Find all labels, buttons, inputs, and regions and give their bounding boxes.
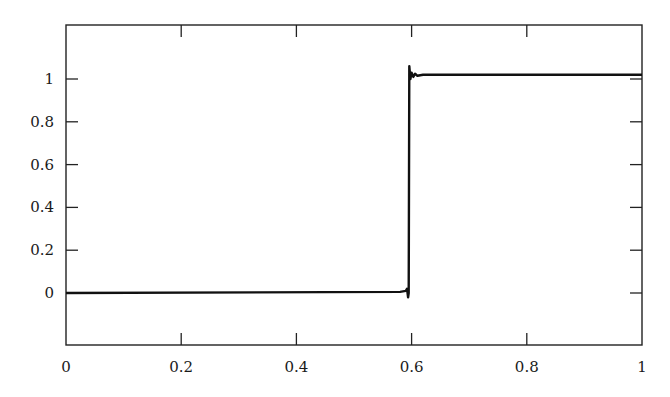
x-axis-tick-labels: 00.20.40.60.81	[61, 358, 647, 376]
data-series-line	[66, 66, 642, 297]
x-tick-label: 0.2	[169, 358, 193, 376]
y-tick-label: 1	[44, 70, 54, 88]
y-tick-label: 0.2	[30, 241, 54, 259]
y-axis-ticks	[66, 79, 642, 293]
y-tick-label: 0.8	[30, 113, 54, 131]
y-tick-label: 0	[44, 284, 54, 302]
y-tick-label: 0.6	[30, 156, 54, 174]
x-tick-label: 0.4	[284, 358, 308, 376]
x-tick-label: 1	[637, 358, 647, 376]
y-tick-label: 0.4	[30, 198, 54, 216]
y-axis-tick-labels: 00.20.40.60.81	[30, 70, 54, 302]
x-tick-label: 0.6	[400, 358, 424, 376]
x-tick-label: 0	[61, 358, 71, 376]
x-axis-ticks	[181, 25, 527, 345]
plot-frame	[66, 25, 642, 345]
chart: 00.20.40.60.81 00.20.40.60.81	[0, 0, 670, 397]
x-tick-label: 0.8	[515, 358, 539, 376]
